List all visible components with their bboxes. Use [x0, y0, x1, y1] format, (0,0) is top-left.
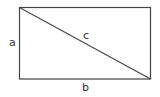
- side-label-b: b: [82, 82, 89, 93]
- rectangle-diagram: [0, 0, 160, 97]
- diagonal-label-c: c: [83, 30, 89, 41]
- side-label-a: a: [9, 37, 16, 48]
- diagonal-line-c: [20, 8, 151, 80]
